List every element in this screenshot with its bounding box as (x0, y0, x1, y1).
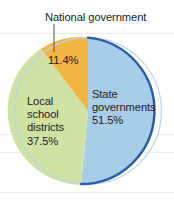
state-governments-label: State governments 51.5% (92, 88, 156, 128)
local-school-districts-line-1: Local (27, 95, 64, 108)
local-school-districts-label: Local school districts 37.5% (27, 95, 64, 148)
state-governments-line-2: governments (92, 101, 156, 114)
local-school-districts-line-2: school (27, 108, 64, 121)
pie-chart-figure: National government 11.4% Local school d… (0, 0, 174, 202)
national-government-callout-label: National government (45, 11, 146, 23)
national-government-value-label: 11.4% (48, 54, 78, 67)
local-school-districts-value: 37.5% (27, 135, 64, 148)
local-school-districts-line-3: districts (27, 121, 64, 134)
state-governments-line-1: State (92, 88, 156, 101)
state-governments-value: 51.5% (92, 114, 156, 127)
